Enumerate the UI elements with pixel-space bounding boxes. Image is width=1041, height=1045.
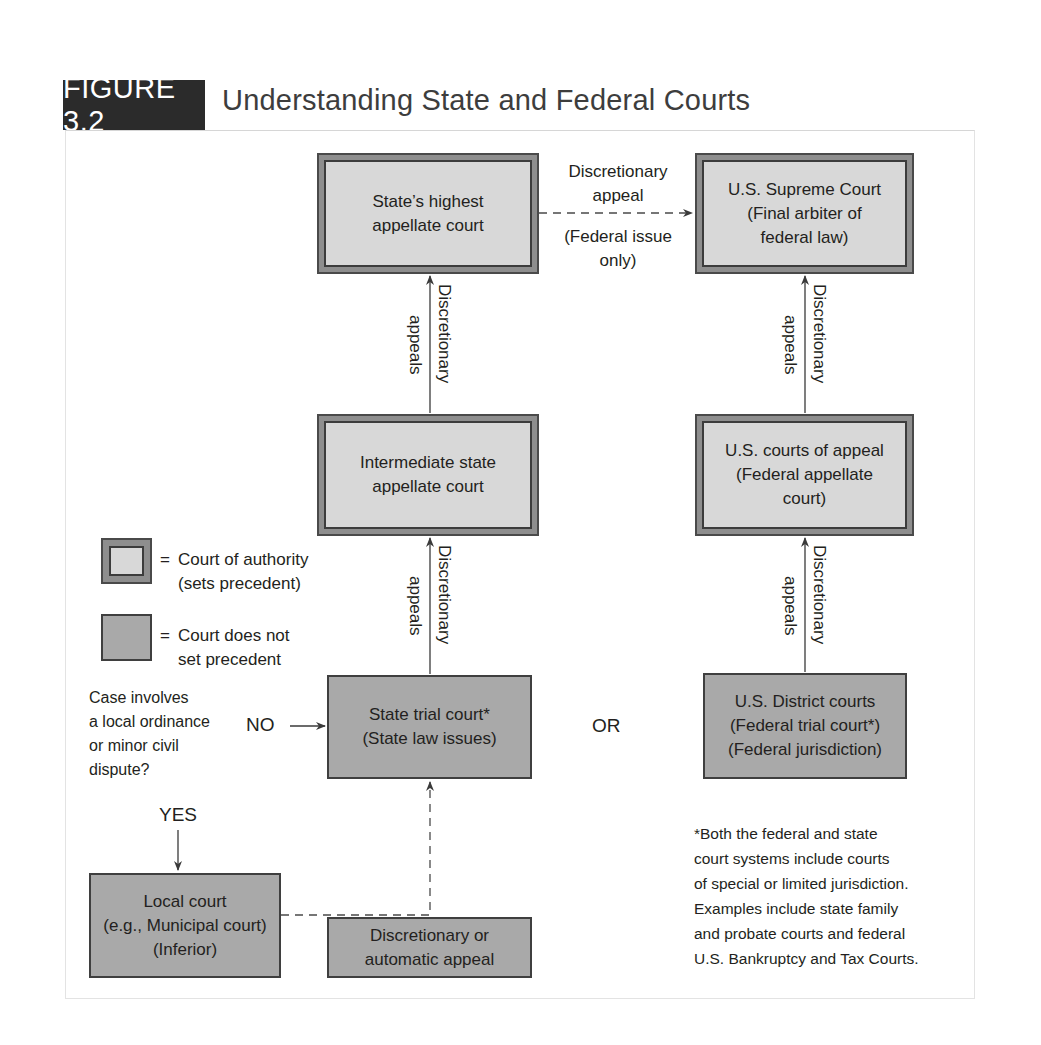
node-discretionary-or-automatic-appeal: Discretionary or automatic appeal bbox=[327, 917, 532, 978]
node-us-courts-of-appeal: U.S. courts of appeal (Federal appellate… bbox=[695, 414, 914, 536]
label-or: OR bbox=[592, 714, 621, 738]
node-line: State trial court* bbox=[362, 703, 496, 727]
edge-label-discretionary-appeal: Discretionary appeal bbox=[548, 160, 688, 208]
node-local-court: Local court (e.g., Municipal court) (Inf… bbox=[89, 873, 281, 978]
edge-label-appeals: appeals bbox=[780, 315, 800, 375]
edge-label-appeals: appeals bbox=[780, 576, 800, 636]
edge-label-discretionary: Discretionary bbox=[434, 545, 454, 644]
node-line: U.S. courts of appeal bbox=[725, 439, 884, 463]
node-line: Local court bbox=[103, 890, 266, 914]
node-line: Discretionary or bbox=[365, 924, 494, 948]
node-line: federal law) bbox=[728, 226, 881, 250]
node-state-highest-court: State’s highest appellate court bbox=[317, 153, 539, 274]
label-no: NO bbox=[246, 713, 275, 737]
node-line: U.S. Supreme Court bbox=[728, 178, 881, 202]
node-line: automatic appeal bbox=[365, 948, 494, 972]
node-line: (Final arbiter of bbox=[728, 202, 881, 226]
legend-plain-label: Court does not set precedent bbox=[178, 624, 290, 672]
edge-label-appeals: appeals bbox=[405, 315, 425, 375]
legend-equals: = bbox=[160, 624, 170, 648]
legend-authority-swatch bbox=[101, 538, 152, 584]
node-line: (Federal appellate bbox=[725, 463, 884, 487]
node-line: (State law issues) bbox=[362, 727, 496, 751]
node-line: U.S. District courts bbox=[728, 690, 882, 714]
edge-label-discretionary: Discretionary bbox=[434, 284, 454, 383]
edge-label-federal-issue-only: (Federal issue only) bbox=[548, 225, 688, 273]
node-line: (Federal trial court*) bbox=[728, 714, 882, 738]
node-line: (e.g., Municipal court) bbox=[103, 914, 266, 938]
footnote: *Both the federal and state court system… bbox=[694, 821, 919, 971]
node-line: appellate court bbox=[372, 214, 484, 238]
legend-plain-swatch bbox=[101, 614, 152, 661]
node-state-trial-court: State trial court* (State law issues) bbox=[327, 675, 532, 779]
edge-label-discretionary: Discretionary bbox=[809, 284, 829, 383]
node-line: court) bbox=[725, 487, 884, 511]
node-line: State’s highest bbox=[372, 190, 484, 214]
edge-label-appeals: appeals bbox=[405, 576, 425, 636]
label-yes: YES bbox=[159, 803, 197, 827]
node-line: Intermediate state bbox=[360, 451, 496, 475]
edge-label-discretionary: Discretionary bbox=[809, 545, 829, 644]
question-text: Case involves a local ordinance or minor… bbox=[89, 686, 210, 782]
node-us-supreme-court: U.S. Supreme Court (Final arbiter of fed… bbox=[695, 153, 914, 274]
node-intermediate-state-court: Intermediate state appellate court bbox=[317, 414, 539, 536]
node-line: (Federal jurisdiction) bbox=[728, 738, 882, 762]
node-line: appellate court bbox=[360, 475, 496, 499]
legend-equals: = bbox=[160, 548, 170, 572]
legend-authority-label: Court of authority (sets precedent) bbox=[178, 548, 308, 596]
edge-local-to-trial bbox=[281, 782, 430, 915]
node-us-district-courts: U.S. District courts (Federal trial cour… bbox=[703, 673, 907, 779]
node-line: (Inferior) bbox=[103, 938, 266, 962]
